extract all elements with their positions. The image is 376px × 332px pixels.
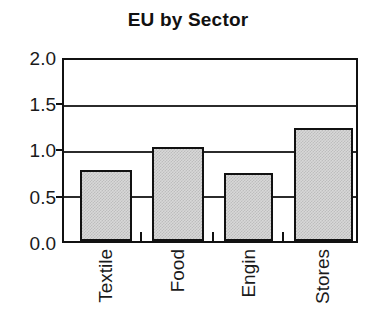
plot-inner [64, 60, 356, 241]
x-tick-label-engin: Engin [239, 249, 259, 329]
y-tick-label-2.0: 2.0 [8, 49, 56, 68]
y-tick-label-0.0: 0.0 [8, 234, 56, 253]
chart-title: EU by Sector [0, 8, 376, 32]
bar-engin[interactable] [224, 173, 273, 241]
chart-figure: EU by Sector 2.0 1.5 1.0 0.5 0.0 Textile… [0, 0, 376, 332]
plot-area [62, 58, 358, 243]
gridline-1.5 [64, 105, 356, 107]
bar-stores[interactable] [294, 128, 353, 241]
x-tick-mark-2 [212, 232, 214, 243]
bar-food[interactable] [152, 147, 204, 241]
x-tick-mark-3 [282, 232, 284, 243]
x-tick-label-food: Food [168, 249, 188, 329]
x-tick-label-textile: Textile [96, 249, 116, 329]
bar-textile[interactable] [80, 170, 132, 241]
y-tick-label-0.5: 0.5 [8, 188, 56, 207]
y-tick-label-1.0: 1.0 [8, 141, 56, 160]
y-axis-tick-labels: 2.0 1.5 1.0 0.5 0.0 [4, 0, 56, 332]
x-tick-label-stores: Stores [313, 249, 333, 329]
y-tick-label-1.5: 1.5 [8, 95, 56, 114]
x-tick-mark-1 [140, 232, 142, 243]
